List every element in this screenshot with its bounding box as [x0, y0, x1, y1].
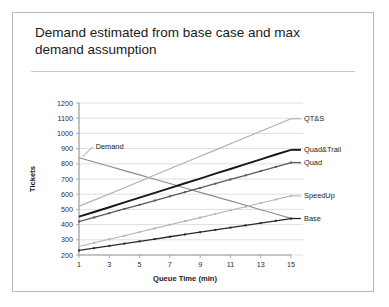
series-marker	[184, 191, 186, 193]
series-marker	[93, 242, 95, 244]
series-label-demand: Demand	[96, 142, 124, 151]
line-chart: 2003004005006007008009001000110012001357…	[13, 75, 375, 289]
series-marker	[123, 235, 125, 237]
x-tick-label: 11	[227, 260, 234, 269]
y-tick-label: 600	[61, 190, 73, 199]
series-marker	[78, 249, 80, 251]
series-label-qt-s: QT&S	[304, 114, 324, 123]
series-marker	[93, 216, 95, 218]
series-marker	[169, 195, 171, 197]
series-marker	[154, 200, 156, 202]
series-marker	[169, 236, 171, 238]
y-tick-label: 1100	[58, 114, 73, 123]
series-marker	[139, 204, 141, 206]
series-marker	[93, 247, 95, 249]
y-axis-label: Tickets	[28, 166, 37, 192]
series-marker	[199, 231, 201, 233]
y-tick-label: 500	[61, 205, 73, 214]
series-label-base: Base	[304, 214, 321, 223]
series-marker	[214, 213, 216, 215]
y-tick-label: 200	[61, 251, 73, 260]
chart-svg: 2003004005006007008009001000110012001357…	[13, 75, 375, 289]
series-marker	[214, 229, 216, 231]
x-tick-label: 5	[138, 260, 142, 269]
slide-frame: Demand estimated from base case and max …	[12, 12, 374, 292]
series-marker	[108, 212, 110, 214]
series-marker	[78, 221, 80, 223]
series-marker	[184, 233, 186, 235]
y-tick-label: 300	[61, 235, 73, 244]
title-divider	[31, 71, 355, 72]
series-marker	[199, 187, 201, 189]
series-marker	[184, 220, 186, 222]
series-marker	[108, 238, 110, 240]
series-line-quad-trail	[79, 150, 291, 217]
series-marker	[123, 208, 125, 210]
series-marker	[260, 222, 262, 224]
page-title: Demand estimated from base case and max …	[35, 25, 345, 58]
series-marker	[139, 231, 141, 233]
series-label-speedup: SpeedUp	[304, 191, 335, 200]
series-marker	[275, 166, 277, 168]
y-tick-label: 1200	[57, 99, 73, 108]
series-label-quad: Quad	[304, 158, 322, 167]
series-marker	[123, 243, 125, 245]
series-marker	[78, 245, 80, 247]
x-tick-label: 9	[198, 260, 202, 269]
x-axis-label: Queue Time (min)	[153, 274, 217, 283]
series-marker	[229, 178, 231, 180]
series-marker	[139, 240, 141, 242]
series-marker	[108, 245, 110, 247]
x-tick-label: 1	[77, 260, 81, 269]
series-marker	[169, 224, 171, 226]
series-marker	[229, 227, 231, 229]
y-tick-label: 700	[61, 175, 73, 184]
series-line-qt-s	[79, 119, 291, 207]
series-marker	[260, 202, 262, 204]
y-tick-label: 1000	[57, 129, 73, 138]
y-tick-label: 900	[61, 144, 73, 153]
series-label-quad-trail: Quad&Trail	[304, 145, 341, 154]
series-marker	[214, 183, 216, 185]
y-tick-label: 400	[61, 220, 73, 229]
x-tick-label: 3	[107, 260, 111, 269]
x-tick-label: 7	[168, 260, 172, 269]
series-marker	[229, 209, 231, 211]
series-marker	[260, 170, 262, 172]
series-marker	[199, 217, 201, 219]
series-marker	[245, 224, 247, 226]
series-marker	[245, 174, 247, 176]
series-marker	[154, 238, 156, 240]
series-marker	[245, 206, 247, 208]
y-tick-label: 800	[61, 159, 73, 168]
series-marker	[154, 227, 156, 229]
x-tick-label: 15	[287, 260, 295, 269]
series-marker	[275, 220, 277, 222]
series-marker	[275, 199, 277, 201]
x-tick-label: 13	[257, 260, 265, 269]
